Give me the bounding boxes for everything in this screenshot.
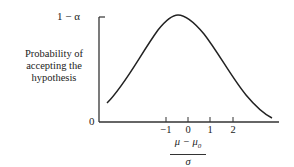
x-label-numerator: μ − μ0 <box>168 136 208 153</box>
x-tick-label: 0 <box>178 124 198 135</box>
y-axis-label: Probability of accepting the hypothesis <box>12 48 96 84</box>
x-tick-label: 1 <box>200 124 220 135</box>
y-tick-label-zero: 0 <box>89 115 95 127</box>
x-ticks <box>166 117 233 122</box>
fraction-bar <box>170 154 206 155</box>
x-label-denominator: σ <box>168 156 208 167</box>
x-axis-label: μ − μ0 σ <box>168 136 208 167</box>
oc-curve <box>107 15 272 118</box>
x-tick-label: −1 <box>156 124 176 135</box>
y-tick-label-top: 1 − α <box>57 10 80 22</box>
x-tick-label: 2 <box>223 124 243 135</box>
